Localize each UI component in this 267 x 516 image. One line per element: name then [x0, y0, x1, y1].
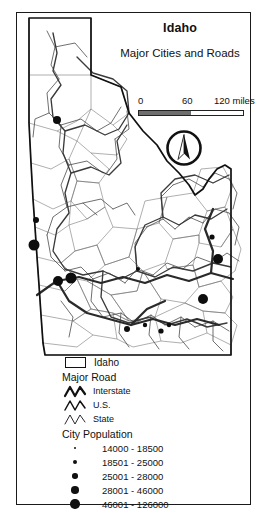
state-road-line-icon	[62, 413, 88, 426]
legend-item-label: State	[88, 414, 114, 424]
city-point	[158, 328, 163, 333]
city-point	[209, 234, 214, 239]
city-point	[124, 326, 130, 332]
legend-item-idaho: Idaho	[62, 356, 212, 369]
legend-item-population-5: 46001 - 126000	[62, 497, 212, 511]
legend-item-label: Idaho	[88, 357, 119, 368]
population-dot-icon	[62, 447, 88, 450]
city-points	[29, 116, 224, 334]
legend-item-population-3: 25001 - 28000	[62, 469, 212, 483]
city-point	[53, 276, 63, 286]
map-drawing-area	[17, 13, 250, 358]
us-highway-line-icon	[62, 399, 88, 412]
legend-item-state: State	[62, 412, 212, 426]
legend: Idaho Major Road Interstate U.S.	[62, 356, 212, 511]
legend-item-label: 25001 - 28000	[88, 471, 163, 482]
city-point	[213, 254, 223, 264]
legend-item-us: U.S.	[62, 398, 212, 412]
population-dot-icon	[62, 499, 88, 509]
legend-item-label: 14000 - 18500	[88, 443, 163, 454]
city-point	[33, 217, 39, 223]
interstate-line-icon	[62, 385, 88, 398]
state-roads	[33, 31, 239, 351]
population-dot-icon	[62, 473, 88, 479]
city-point	[136, 267, 140, 271]
legend-item-population-2: 18501 - 25000	[62, 455, 212, 469]
city-point	[143, 323, 147, 327]
legend-heading-major-road: Major Road	[62, 371, 212, 383]
idaho-outline-swatch-icon	[62, 357, 88, 368]
city-point	[198, 294, 208, 304]
legend-item-label: 18501 - 25000	[88, 457, 163, 468]
legend-heading-city-population: City Population	[62, 428, 212, 440]
idaho-state-outline	[29, 18, 231, 355]
city-point	[29, 240, 40, 251]
population-dot-icon	[62, 460, 88, 464]
legend-item-label: Interstate	[88, 386, 131, 396]
legend-item-population-4: 28001 - 46000	[62, 483, 212, 497]
legend-item-label: 28001 - 46000	[88, 485, 163, 496]
legend-item-population-1: 14000 - 18500	[62, 441, 212, 455]
legend-item-interstate: Interstate	[62, 384, 212, 398]
idaho-map-figure: Idaho Major Cities and Roads 0 60 120 mi…	[0, 0, 267, 516]
legend-item-label: U.S.	[88, 400, 111, 410]
population-dot-icon	[62, 486, 88, 494]
county-boundaries	[29, 18, 241, 355]
city-point	[66, 273, 77, 284]
city-point	[167, 323, 171, 327]
legend-item-label: 46001 - 126000	[88, 499, 169, 510]
city-point	[53, 116, 61, 124]
